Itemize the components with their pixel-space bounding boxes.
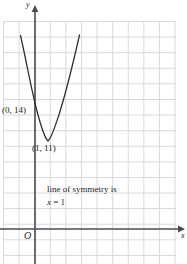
symmetry-equation-rest: = 1 (51, 197, 65, 207)
parabola-curve (21, 35, 80, 141)
graph-plot (0, 0, 187, 264)
vertex-point-label: (1, 11) (32, 144, 56, 153)
y-axis-label: y (26, 1, 30, 9)
x-axis-label: x (181, 232, 185, 240)
symmetry-annotation-line1: line of symmetry is (47, 183, 117, 196)
y-intercept-point-label: (0, 14) (2, 106, 26, 115)
symmetry-annotation-line2: x = 1 (47, 196, 117, 209)
y-axis-arrow-icon (32, 5, 39, 12)
origin-label: O (24, 231, 31, 241)
symmetry-annotation: line of symmetry is x = 1 (47, 183, 117, 209)
graph-figure: (0, 14) (1, 11) O y x line of symmetry i… (0, 0, 187, 264)
